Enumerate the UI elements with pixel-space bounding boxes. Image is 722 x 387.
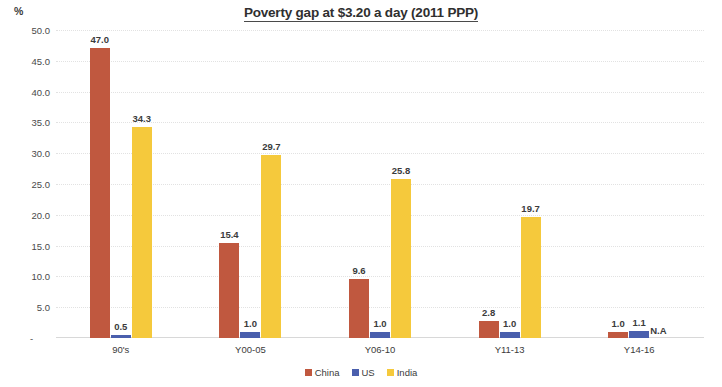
plot-area: 47.00.534.315.41.029.79.61.025.82.81.019… bbox=[56, 30, 704, 338]
bar-china[interactable] bbox=[608, 332, 628, 338]
bar-group: 1.01.1N.A bbox=[608, 30, 670, 338]
bar-value-label: 9.6 bbox=[352, 265, 365, 276]
bar-india[interactable] bbox=[132, 127, 152, 338]
y-axis-tick-label: 35.0 bbox=[6, 117, 50, 128]
x-axis-category-label: 90's bbox=[56, 344, 186, 355]
bar-value-label: 19.7 bbox=[521, 203, 540, 214]
bar-us[interactable] bbox=[240, 332, 260, 338]
bar-value-label: 1.0 bbox=[244, 318, 257, 329]
y-axis-zero-tick: - bbox=[30, 333, 33, 344]
x-axis-category-label: Y14-16 bbox=[574, 344, 704, 355]
bar-value-label: 1.0 bbox=[612, 318, 625, 329]
legend-item-india[interactable]: India bbox=[387, 367, 418, 378]
y-axis-tick-label: 40.0 bbox=[6, 86, 50, 97]
bar-value-label: 34.3 bbox=[133, 113, 152, 124]
bar-value-label: 47.0 bbox=[91, 34, 110, 45]
bar-group: 9.61.025.8 bbox=[349, 30, 411, 338]
x-axis-category-label: Y00-05 bbox=[186, 344, 316, 355]
bar-value-label: 0.5 bbox=[114, 321, 127, 332]
legend-label: China bbox=[315, 367, 340, 378]
bar-group: 15.41.029.7 bbox=[219, 30, 281, 338]
bar-china[interactable] bbox=[90, 48, 110, 338]
legend-swatch-icon bbox=[305, 369, 312, 376]
y-axis-tick-label: 45.0 bbox=[6, 55, 50, 66]
bar-china[interactable] bbox=[219, 243, 239, 338]
bar-group: 2.81.019.7 bbox=[479, 30, 541, 338]
bar-us[interactable] bbox=[111, 335, 131, 338]
bar-value-label: 29.7 bbox=[262, 141, 281, 152]
legend-label: US bbox=[362, 367, 375, 378]
chart-legend: ChinaUSIndia bbox=[0, 367, 722, 378]
y-axis-tick-label: 50.0 bbox=[6, 25, 50, 36]
bar-us[interactable] bbox=[370, 332, 390, 338]
x-axis-category-label: Y11-13 bbox=[445, 344, 575, 355]
bar-india[interactable] bbox=[391, 179, 411, 338]
bar-value-label: 1.0 bbox=[373, 318, 386, 329]
y-axis-tick-label: 30.0 bbox=[6, 148, 50, 159]
y-axis-unit-label: % bbox=[14, 5, 23, 17]
chart-title-text: Poverty gap at $3.20 a day (2011 PPP) bbox=[244, 5, 478, 22]
bar-india[interactable] bbox=[521, 217, 541, 338]
legend-item-china[interactable]: China bbox=[305, 367, 340, 378]
bar-group: 47.00.534.3 bbox=[90, 30, 152, 338]
y-axis-tick-label: 15.0 bbox=[6, 240, 50, 251]
bar-value-label: 25.8 bbox=[392, 165, 411, 176]
legend-swatch-icon bbox=[387, 369, 394, 376]
y-axis-tick-label: 10.0 bbox=[6, 271, 50, 282]
bar-value-label: 1.0 bbox=[503, 318, 516, 329]
y-axis-tick-label: 5.0 bbox=[6, 302, 50, 313]
bar-us[interactable] bbox=[500, 332, 520, 338]
x-axis-category-label: Y06-10 bbox=[315, 344, 445, 355]
legend-label: India bbox=[397, 367, 418, 378]
bar-china[interactable] bbox=[479, 321, 499, 338]
bar-us[interactable] bbox=[629, 331, 649, 338]
y-axis-tick-label: 25.0 bbox=[6, 179, 50, 190]
y-axis-tick-label: 20.0 bbox=[6, 209, 50, 220]
legend-item-us[interactable]: US bbox=[352, 367, 375, 378]
poverty-gap-bar-chart: Poverty gap at $3.20 a day (2011 PPP) % … bbox=[0, 0, 722, 387]
bar-value-label: 2.8 bbox=[482, 307, 495, 318]
bar-china[interactable] bbox=[349, 279, 369, 338]
bar-value-label: 1.1 bbox=[633, 317, 646, 328]
legend-swatch-icon bbox=[352, 369, 359, 376]
bar-india[interactable] bbox=[261, 155, 281, 338]
na-annotation: N.A bbox=[650, 325, 666, 336]
bar-value-label: 15.4 bbox=[220, 229, 239, 240]
chart-title: Poverty gap at $3.20 a day (2011 PPP) bbox=[0, 5, 722, 20]
y-axis: 50.045.040.035.030.025.020.015.010.05.0 bbox=[0, 30, 50, 338]
